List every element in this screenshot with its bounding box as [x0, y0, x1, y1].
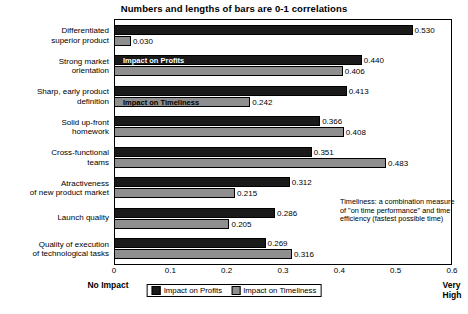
bar-profits: 0.440Impact on Profits [114, 55, 362, 65]
bar-value-label: 0.242 [252, 97, 272, 106]
category-label: Launch quality [0, 214, 109, 224]
x-axis-tick: 0.1 [165, 266, 176, 275]
bar-timeliness: 0.406 [114, 66, 343, 76]
bar-value-label: 0.205 [231, 219, 251, 228]
bar-value-label: 0.406 [345, 67, 365, 76]
bar-timeliness: 0.030 [114, 36, 131, 46]
x-axis-tick: 0.3 [277, 266, 288, 275]
bar-timeliness: 0.215 [114, 188, 235, 198]
x-axis: 00.10.20.30.40.50.6 [114, 266, 452, 280]
bar-value-label: 0.269 [268, 239, 288, 248]
chart-legend: Impact on Profits Impact on Timeliness [147, 284, 322, 297]
bar-timeliness: 0.205 [114, 219, 229, 229]
bar-timeliness: 0.242Impact on Timeliness [114, 97, 250, 107]
bar-value-label: 0.366 [322, 117, 342, 126]
bar-value-label: 0.530 [415, 25, 435, 34]
x-axis-tick: 0.2 [221, 266, 232, 275]
legend-item-profits: Impact on Profits [152, 286, 223, 295]
legend-label-profits: Impact on Profits [164, 286, 223, 295]
category-label: Atractiveness of new product market [0, 178, 109, 197]
bar-profits: 0.530 [114, 25, 413, 35]
legend-swatch-profits [152, 286, 161, 295]
bar-group: Quality of execution of technological ta… [114, 234, 452, 265]
bar-value-label: 0.316 [294, 250, 314, 259]
bar-profits: 0.413 [114, 86, 347, 96]
bar-timeliness: 0.408 [114, 127, 344, 137]
x-axis-tick: 0 [112, 266, 116, 275]
category-label: Differentiated superior product [0, 26, 109, 45]
bar-value-label: 0.030 [133, 36, 153, 45]
bar-timeliness: 0.483 [114, 158, 386, 168]
category-label: Quality of execution of technological ta… [0, 239, 109, 258]
bar-value-label: 0.312 [292, 178, 312, 187]
axis-label-very-high: Very High [443, 280, 462, 300]
bar-group: Cross-functional teams0.3510.483 [114, 142, 452, 173]
bar-group: Sharp, early product definition0.4130.24… [114, 81, 452, 112]
timeliness-annotation: Timeliness: a combination measure of "on… [340, 198, 458, 224]
category-label: Cross-functional teams [0, 148, 109, 167]
legend-item-timeliness: Impact on Timeliness [231, 286, 316, 295]
bar-value-label: 0.408 [346, 128, 366, 137]
category-label: Solid up-front homework [0, 117, 109, 136]
in-bar-label-profits: Impact on Profits [123, 56, 184, 65]
bar-group: Differentiated superior product0.5300.03… [114, 20, 452, 51]
bar-group: Strong market orientation0.440Impact on … [114, 51, 452, 82]
bar-group: Solid up-front homework0.3660.408 [114, 112, 452, 143]
bar-value-label: 0.286 [277, 208, 297, 217]
category-label: Strong market orientation [0, 56, 109, 75]
bar-profits: 0.269 [114, 238, 266, 248]
x-axis-tick: 0.5 [390, 266, 401, 275]
chart-title: Numbers and lengths of bars are 0-1 corr… [0, 3, 468, 14]
bar-timeliness: 0.316 [114, 249, 292, 259]
bar-value-label: 0.483 [388, 158, 408, 167]
in-bar-label-timeliness: Impact on Timeliness [123, 97, 199, 106]
legend-label-timeliness: Impact on Timeliness [243, 286, 316, 295]
bar-profits: 0.366 [114, 116, 320, 126]
chart-container: Numbers and lengths of bars are 0-1 corr… [0, 0, 468, 314]
bar-value-label: 0.440 [364, 56, 384, 65]
bar-rows: Differentiated superior product0.5300.03… [114, 20, 452, 264]
bar-profits: 0.351 [114, 147, 312, 157]
bar-value-label: 0.413 [349, 86, 369, 95]
bar-value-label: 0.215 [237, 189, 257, 198]
bar-profits: 0.312 [114, 177, 290, 187]
bar-value-label: 0.351 [314, 147, 334, 156]
bar-profits: 0.286 [114, 208, 275, 218]
legend-swatch-timeliness [231, 286, 240, 295]
axis-label-no-impact: No Impact [87, 280, 128, 290]
x-axis-tick: 0.4 [334, 266, 345, 275]
category-label: Sharp, early product definition [0, 87, 109, 106]
x-axis-tick: 0.6 [446, 266, 457, 275]
